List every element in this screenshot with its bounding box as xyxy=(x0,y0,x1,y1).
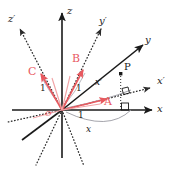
y-prime-axis-negative xyxy=(36,110,62,165)
vector-C-label: C xyxy=(28,66,36,77)
coordinate-axes-figure: z′ z y′ y x′ x C B A O P 1 1 1 x′ x xyxy=(0,0,178,170)
unit-label-c: 1 xyxy=(40,84,46,93)
vector-B-label: B xyxy=(72,53,80,64)
y-prime-axis-label: y′ xyxy=(99,16,107,26)
z-prime-axis-label: z′ xyxy=(8,14,15,24)
unit-label-a: 1 xyxy=(78,111,84,120)
unit-label-b: 1 xyxy=(76,84,82,93)
point-P-label: P xyxy=(124,62,131,72)
x-axis-label: x xyxy=(157,104,163,114)
arc-x-label: x xyxy=(86,125,91,134)
y-axis-label: y xyxy=(145,35,151,45)
right-angle-x-projection xyxy=(122,103,129,110)
point-P-marker xyxy=(119,72,122,75)
figure-canvas xyxy=(0,0,178,170)
x-prime-axis-label: x′ xyxy=(157,76,165,86)
arc-x xyxy=(66,110,131,122)
z-axis-label: z xyxy=(67,6,72,16)
arc-x-prime-label: x′ xyxy=(95,78,102,87)
y-axis-negative xyxy=(22,110,62,140)
vector-A-label: A xyxy=(104,96,112,107)
origin-label: O xyxy=(45,110,52,118)
